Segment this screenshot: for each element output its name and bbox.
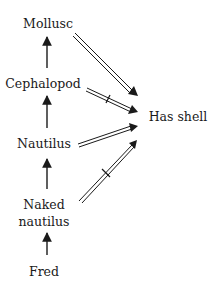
node-naked-nautilus-line1: Naked [23, 197, 64, 212]
inheritance-diagram: Mollusc Cephalopod Nautilus Naked nautil… [0, 0, 215, 294]
node-has-shell: Has shell [149, 109, 208, 124]
node-mollusc: Mollusc [23, 16, 73, 31]
node-nautilus: Nautilus [17, 136, 71, 151]
arrowhead-icon [128, 105, 138, 114]
node-naked-nautilus-line2: nautilus [18, 214, 69, 229]
node-cephalopod: Cephalopod [5, 76, 81, 91]
double-arrow-nautilus-has-shell [78, 123, 138, 147]
node-fred: Fred [29, 264, 59, 279]
arrowhead-icon [129, 123, 138, 132]
double-arrow-mollusc-has-shell [73, 33, 138, 96]
double-arrow-naked-nautilus-has-shell-negated [79, 140, 137, 203]
